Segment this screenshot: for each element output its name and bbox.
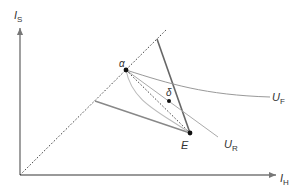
uf-curve xyxy=(126,70,270,97)
alpha-label: α xyxy=(119,58,125,69)
point-e xyxy=(188,131,193,136)
ur-label: UR xyxy=(224,138,238,153)
uf-label: UF xyxy=(272,91,285,106)
x-axis-label: IH xyxy=(280,172,289,186)
point-delta xyxy=(167,99,171,103)
contract-line-upper xyxy=(157,39,190,133)
e-label: E xyxy=(181,139,189,151)
y-axis-label: IS xyxy=(14,9,22,24)
diagram-canvas: IS IH α δ E UF UR xyxy=(0,0,302,186)
delta-label: δ xyxy=(166,87,172,98)
